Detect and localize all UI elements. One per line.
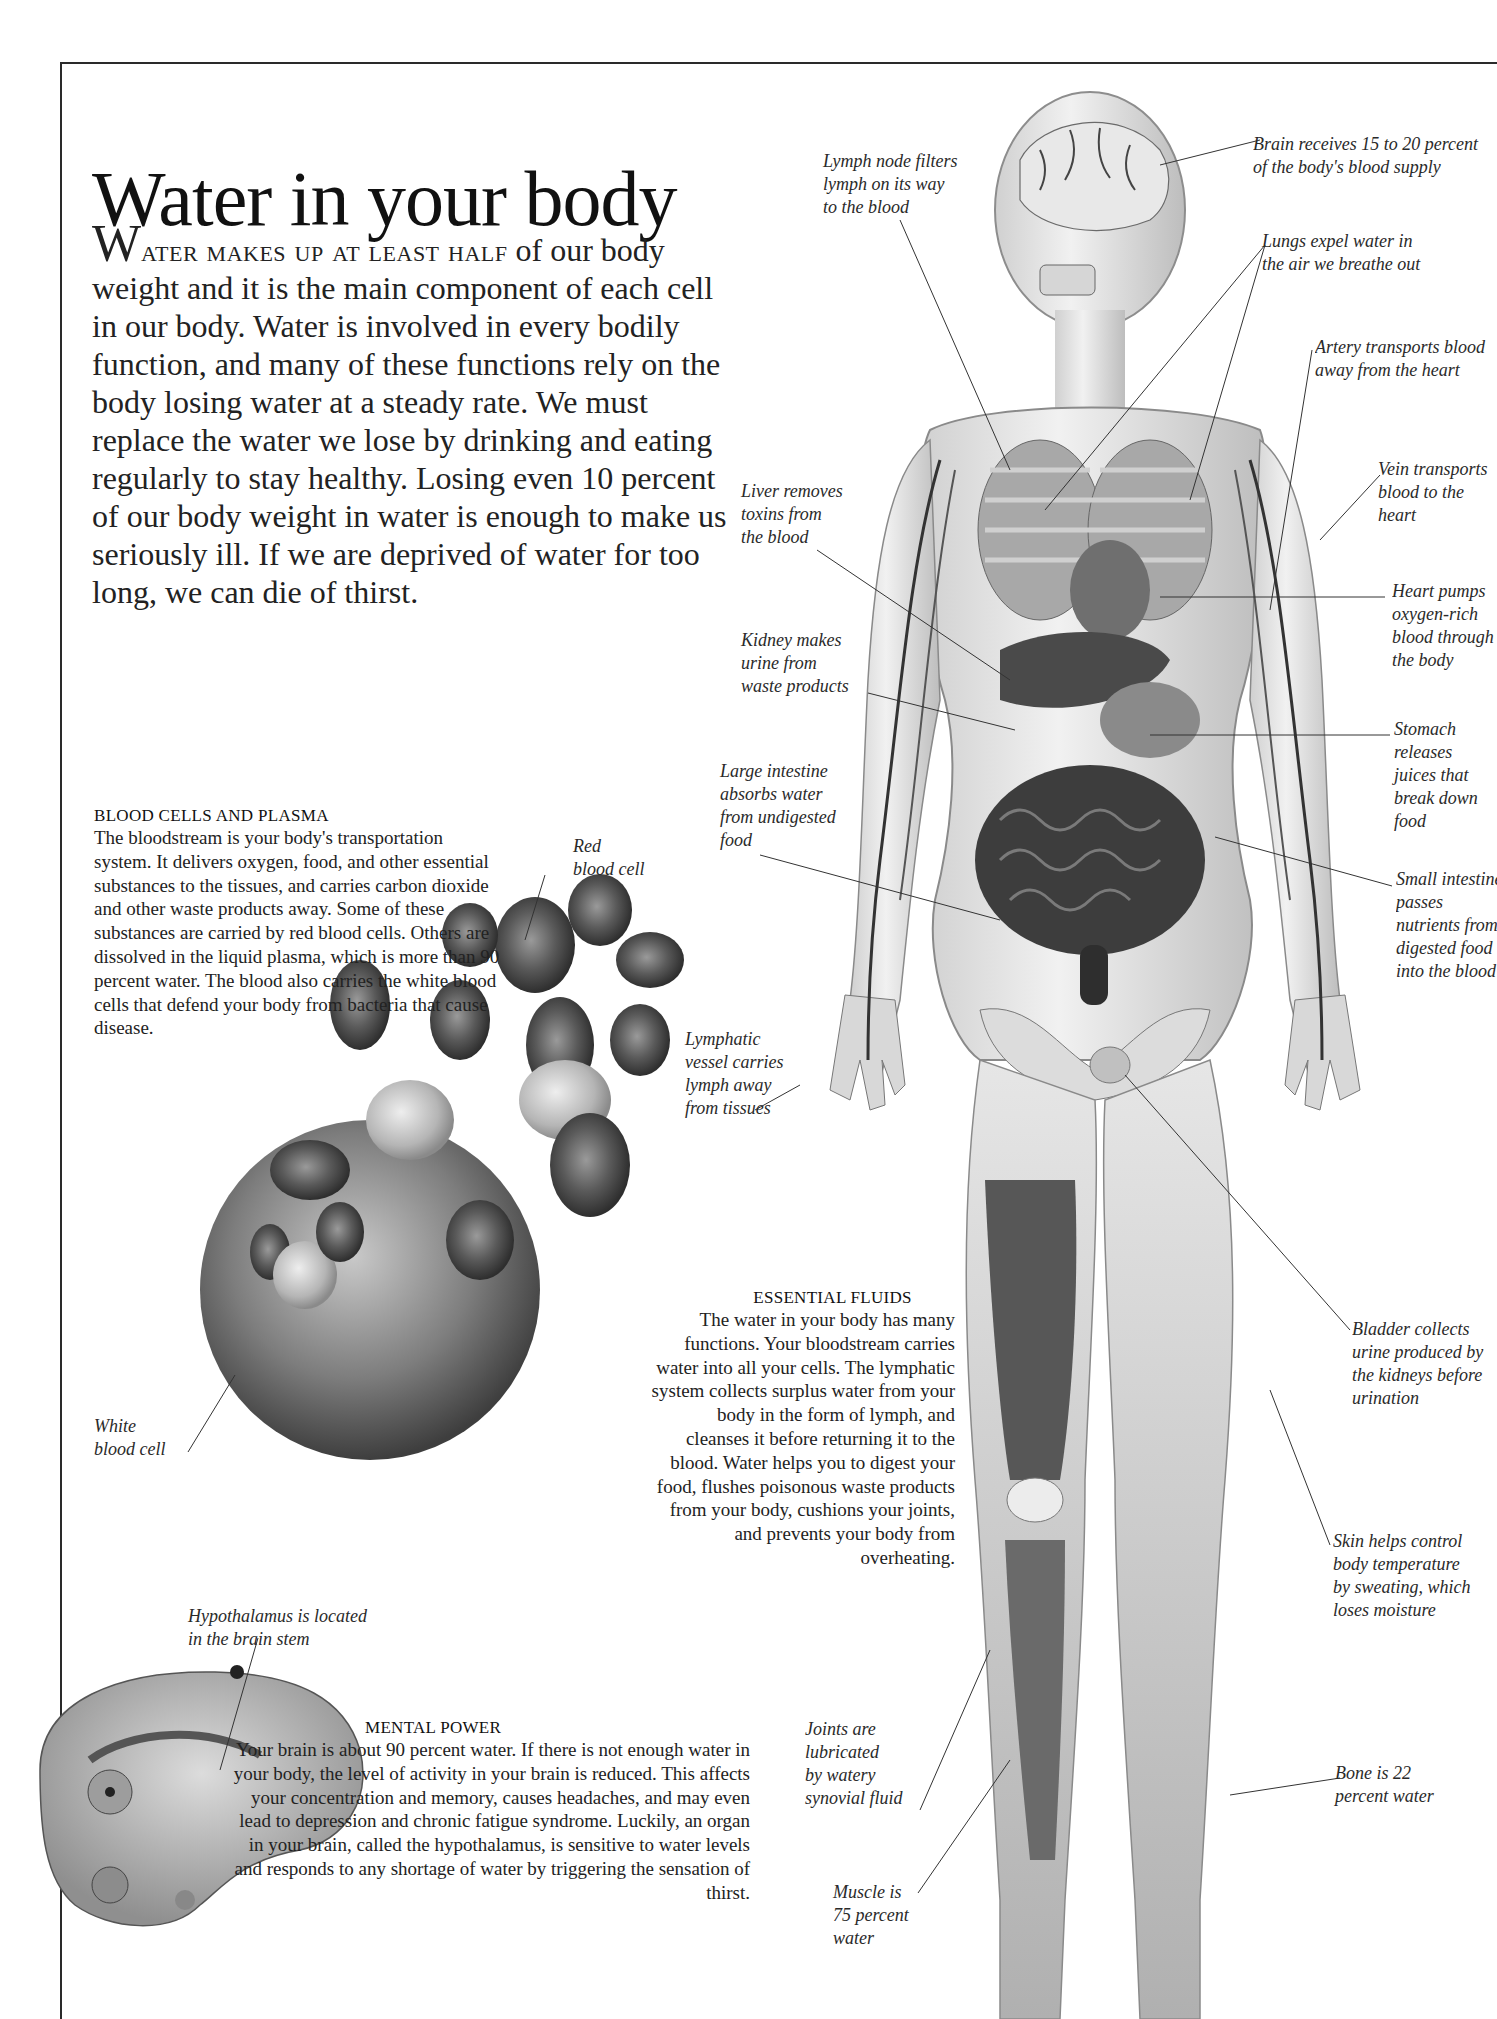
callout-artery: Artery transports blood away from the he… [1315, 336, 1497, 382]
mental-power-section: MENTAL POWER Your brain is about 90 perc… [230, 1718, 750, 1905]
callout-skin: Skin helps control body temperature by s… [1333, 1530, 1497, 1622]
callout-bladder: Bladder collects urine produced by the k… [1352, 1318, 1497, 1410]
callout-bone: Bone is 22 percent water [1335, 1762, 1434, 1808]
intro-body-text: of our body weight and it is the main co… [92, 232, 727, 610]
callout-hypothalamus: Hypothalamus is located in the brain ste… [188, 1605, 367, 1651]
callout-joints: Joints are lubricated by watery synovial… [805, 1718, 903, 1810]
callout-heart: Heart pumps oxygen-rich blood through th… [1392, 580, 1497, 672]
callout-lungs: Lungs expel water in the air we breathe … [1262, 230, 1420, 276]
intro-smallcaps-lead: ater makes up at least half [141, 232, 507, 268]
intro-dropcap: W [92, 215, 141, 272]
callout-stomach: Stomach releases juices that break down … [1394, 718, 1478, 833]
intro-paragraph: Water makes up at least half of our body… [92, 225, 732, 611]
fluids-section-heading: ESSENTIAL FLUIDS [650, 1288, 955, 1308]
callout-white-blood-cell: White blood cell [94, 1415, 165, 1461]
callout-red-blood-cell: Red blood cell [573, 835, 644, 881]
callout-liver: Liver removes toxins from the blood [741, 480, 843, 549]
callout-vein: Vein transports blood to the heart [1378, 458, 1497, 527]
callout-lymph-node: Lymph node filters lymph on its way to t… [823, 150, 957, 219]
callout-small-intestine: Small intestine passes nutrients from di… [1396, 868, 1497, 983]
callout-kidney: Kidney makes urine from waste products [741, 629, 849, 698]
blood-cells-section: BLOOD CELLS AND PLASMA The bloodstream i… [94, 806, 524, 1040]
mental-section-body: Your brain is about 90 percent water. If… [230, 1738, 750, 1905]
mental-section-heading: MENTAL POWER [230, 1718, 750, 1738]
callout-large-intestine: Large intestine absorbs water from undig… [720, 760, 836, 852]
blood-section-heading: BLOOD CELLS AND PLASMA [94, 806, 524, 826]
fluids-section-body: The water in your body has many function… [650, 1308, 955, 1570]
blood-section-body: The bloodstream is your body's transport… [94, 826, 504, 1040]
essential-fluids-section: ESSENTIAL FLUIDS The water in your body … [650, 1288, 955, 1570]
human-body-illustration [830, 92, 1360, 2019]
callout-lymphatic-vessel: Lymphatic vessel carries lymph away from… [685, 1028, 783, 1120]
callout-muscle: Muscle is 75 percent water [833, 1881, 909, 1950]
callout-brain-blood: Brain receives 15 to 20 percent of the b… [1253, 133, 1497, 179]
